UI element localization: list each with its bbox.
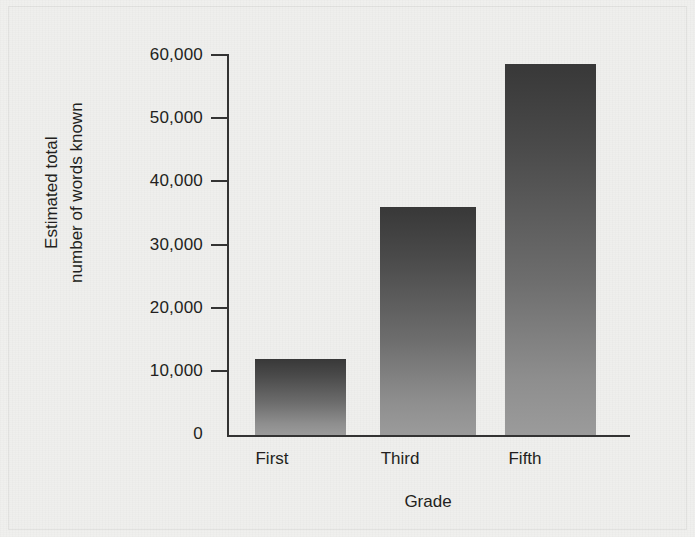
y-tick-label-60000: 60,000: [103, 45, 203, 65]
y-axis-title-line1: Estimated total: [40, 63, 65, 323]
y-axis-title-line2: number of words known: [65, 63, 90, 323]
y-tick-mark-40000: [211, 180, 228, 182]
bar-fifth[interactable]: [505, 64, 596, 435]
x-tick-label-first: First: [202, 449, 342, 469]
bar-third[interactable]: [380, 207, 476, 435]
bar-first[interactable]: [255, 359, 346, 435]
figure-container: Estimated total number of words known 60…: [0, 0, 695, 537]
plot-area: [228, 55, 628, 435]
x-axis-title: Grade: [228, 492, 628, 512]
y-tick-mark-10000: [211, 370, 228, 372]
y-tick-mark-20000: [211, 307, 228, 309]
y-tick-label-30000: 30,000: [103, 235, 203, 255]
x-tick-label-fifth: Fifth: [455, 449, 595, 469]
x-tick-label-third: Third: [330, 449, 470, 469]
y-tick-label-20000: 20,000: [103, 298, 203, 318]
y-tick-mark-60000: [211, 54, 228, 56]
y-axis-tick-labels: 60,000 50,000 40,000 30,000 20,000 10,00…: [98, 0, 203, 537]
y-axis-title: Estimated total number of words known: [40, 63, 89, 323]
y-tick-mark-50000: [211, 117, 228, 119]
y-tick-label-10000: 10,000: [103, 361, 203, 381]
y-tick-label-40000: 40,000: [103, 171, 203, 191]
y-tick-label-0: 0: [103, 424, 203, 444]
y-tick-mark-30000: [211, 244, 228, 246]
y-tick-label-50000: 50,000: [103, 108, 203, 128]
x-axis-line: [227, 435, 630, 437]
